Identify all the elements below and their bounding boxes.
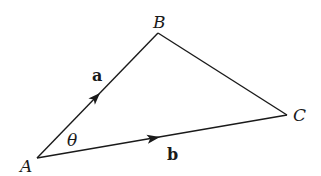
vector-label-b: b (167, 145, 178, 164)
vertex-label-b: B (152, 12, 166, 32)
edge-bc (158, 33, 287, 115)
vector-label-a: a (92, 66, 102, 85)
vertex-label-a: A (18, 156, 32, 176)
angle-label-theta: θ (67, 130, 77, 150)
vertex-label-c: C (293, 105, 306, 125)
triangle-diagram: A B C a b θ (0, 0, 321, 176)
